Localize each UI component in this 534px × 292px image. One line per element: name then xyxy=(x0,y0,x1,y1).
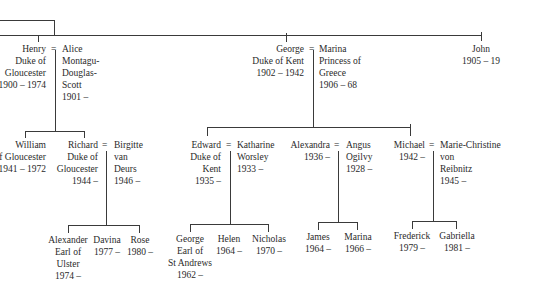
person-henry: Henry Duke of Gloucester 1900 – 1974 xyxy=(0,43,46,91)
person-alice: Alice Montagu- Douglas- Scott 1901 – xyxy=(62,43,99,103)
connector-drop-marina-ogilvy xyxy=(357,222,358,230)
person-birgitte: Birgitte van Deurs 1946 – xyxy=(114,139,143,187)
person-alexander: Alexander Earl of Ulster 1974 – xyxy=(43,234,93,282)
connector-alexandra-angus-descent xyxy=(338,151,339,223)
person-edward: Edward Duke of Kent 1935 – xyxy=(190,139,221,187)
connector-drop-edward xyxy=(207,127,208,136)
connector-drop-john xyxy=(481,32,482,41)
connector-george-marina-descent xyxy=(313,50,314,128)
connector-michael-marie-descent xyxy=(433,151,434,222)
person-marina: Marina Princess of Greece 1906 – 68 xyxy=(319,43,361,91)
connector-children-henry xyxy=(25,131,85,132)
marriage-symbol: = xyxy=(51,43,56,55)
marriage-symbol: = xyxy=(226,139,231,151)
person-gabriella: Gabriella 1981 – xyxy=(432,230,482,254)
connector-edward-katharine-descent xyxy=(230,151,231,225)
connector-drop-gabriella xyxy=(456,221,457,229)
person-angus: Angus Ogilvy 1928 – xyxy=(346,139,372,175)
connector-drop-richard xyxy=(84,131,85,138)
person-william: William of Gloucester 1941 – 1972 xyxy=(0,139,46,175)
marriage-symbol: = xyxy=(429,139,434,151)
connector-children-george xyxy=(207,127,411,128)
connector-drop-george xyxy=(286,33,287,42)
connector-drop-henry xyxy=(38,35,39,42)
person-richard: Richard Duke of Gloucester 1944 – xyxy=(57,139,98,187)
person-michael: Michael 1942 – xyxy=(394,139,425,163)
connector-drop-nicholas xyxy=(268,224,269,232)
connector-drop-michael xyxy=(410,124,411,136)
connector-richard-birgitte-descent xyxy=(106,151,107,226)
marriage-symbol: = xyxy=(309,43,314,55)
person-davina: Davina 1977 – xyxy=(87,234,127,258)
person-james: James 1964 – xyxy=(300,231,336,255)
connector-children-edward xyxy=(190,224,269,225)
person-katharine: Katharine Worsley 1933 – xyxy=(237,139,274,175)
connector-drop-alexander xyxy=(68,225,69,233)
connector-drop-william xyxy=(25,131,26,138)
connector-drop-frederick xyxy=(412,221,413,229)
person-marina-ogilvy: Marina 1966 – xyxy=(338,231,378,255)
connector-children-richard xyxy=(68,225,140,226)
marriage-symbol: = xyxy=(334,139,339,151)
person-marie-christine: Marie-Christine von Reibnitz 1945 – xyxy=(440,139,501,187)
connector-drop-george-st-andrews xyxy=(190,224,191,232)
connector-henry-alice-descent xyxy=(55,50,56,131)
person-george-duke-of-kent: George Duke of Kent 1902 – 1942 xyxy=(252,43,304,79)
connector-drop-rose xyxy=(139,225,140,233)
connector-siblings-gen1 xyxy=(0,35,482,36)
connector-drop-james xyxy=(318,222,319,230)
connector-children-alexandra xyxy=(318,222,358,223)
person-helen: Helen 1964 – xyxy=(209,233,249,257)
connector-children-michael xyxy=(412,221,457,222)
person-frederick: Frederick 1979 – xyxy=(387,230,437,254)
person-john: John 1905 – 19 xyxy=(461,43,501,67)
marriage-symbol: = xyxy=(102,139,107,151)
person-nicholas: Nicholas 1970 – xyxy=(246,233,292,257)
person-alexandra: Alexandra 1936 – xyxy=(290,139,330,163)
person-rose: Rose 1980 – xyxy=(122,234,158,258)
